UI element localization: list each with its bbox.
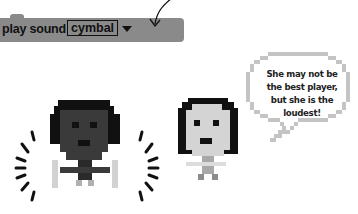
chevron-down-icon[interactable] xyxy=(122,26,132,32)
curved-arrow-icon xyxy=(140,0,200,30)
block-label: play sound xyxy=(2,22,66,36)
left-shake-lines xyxy=(12,128,42,202)
right-shake-lines xyxy=(132,128,162,202)
drummer-character xyxy=(50,100,130,190)
sound-dropdown[interactable]: cymbal xyxy=(67,20,118,36)
girl-character xyxy=(178,98,246,180)
speech-bubble-text: She may not be the best player, but she … xyxy=(262,68,342,120)
